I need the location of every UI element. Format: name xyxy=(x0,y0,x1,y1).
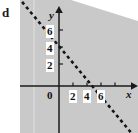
y-tick-label-6: 6 xyxy=(46,25,54,38)
y-tick-label-4: 4 xyxy=(46,42,54,55)
x-tick-label-6: 6 xyxy=(97,90,105,103)
x-tick-label-4: 4 xyxy=(83,90,91,103)
inequality-graph-figure: d y x xyxy=(0,0,138,133)
y-axis-label: y xyxy=(49,10,54,21)
y-tick-label-2: 2 xyxy=(46,59,54,72)
origin-tick-label: 0 xyxy=(47,90,53,101)
panel-letter: d xyxy=(2,6,9,19)
solution-region-shading xyxy=(20,0,138,133)
plot-canvas xyxy=(20,0,138,133)
plot-area: y x 0 6 4 2 2 4 6 xyxy=(20,0,138,133)
x-axis-label: x xyxy=(126,89,132,100)
x-tick-label-2: 2 xyxy=(69,90,77,103)
